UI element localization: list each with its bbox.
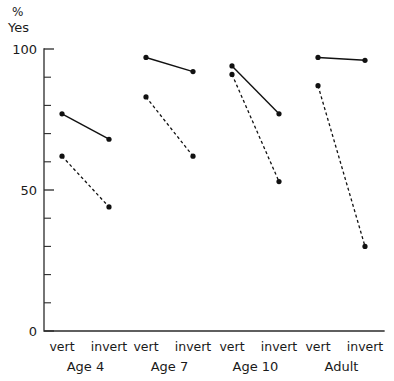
- series-segment-dashed: [146, 97, 193, 156]
- data-point-marker: [276, 111, 281, 116]
- data-point-marker: [229, 72, 234, 77]
- data-point-marker: [106, 137, 111, 142]
- series-segment-solid: [62, 114, 109, 139]
- data-point-marker: [59, 111, 64, 116]
- data-point-marker: [315, 55, 320, 60]
- data-point-marker: [276, 179, 281, 184]
- y-tick-label: 100: [12, 42, 37, 57]
- data-point-marker: [362, 58, 367, 63]
- x-group-label: Adult: [325, 359, 359, 374]
- x-group-label: Age 4: [67, 359, 105, 374]
- x-axis-condition-labels: vertinvertvertinvertvertinvertvertinvert: [49, 339, 383, 354]
- x-condition-label-vert: vert: [49, 339, 74, 354]
- line-chart: % Yes 100500 vertinvertvertinvertvertinv…: [0, 0, 394, 381]
- x-condition-label-vert: vert: [305, 339, 330, 354]
- axis-lines: [44, 49, 384, 331]
- data-point-marker: [229, 63, 234, 68]
- series-segment-solid: [318, 57, 365, 60]
- axes: [44, 49, 384, 331]
- x-axis-group-labels: Age 4Age 7Age 10Adult: [67, 359, 359, 374]
- series-segment-dashed: [318, 86, 365, 247]
- x-condition-label-vert: vert: [133, 339, 158, 354]
- y-axis-caption: % Yes: [7, 5, 29, 35]
- y-axis-title-label: Yes: [7, 20, 29, 35]
- data-point-marker: [190, 69, 195, 74]
- data-point-marker: [315, 83, 320, 88]
- y-axis-ticks: [44, 49, 54, 331]
- data-point-marker: [106, 204, 111, 209]
- data-point-marker: [59, 154, 64, 159]
- x-group-label: Age 7: [151, 359, 189, 374]
- chart-container: % Yes 100500 vertinvertvertinvertvertinv…: [0, 0, 394, 381]
- y-tick-label: 0: [29, 324, 37, 339]
- data-point-marker: [143, 55, 148, 60]
- data-point-marker: [143, 94, 148, 99]
- y-axis-unit-label: %: [12, 5, 23, 19]
- x-condition-label-invert: invert: [261, 339, 298, 354]
- x-condition-label-vert: vert: [219, 339, 244, 354]
- series-segment-solid: [146, 57, 193, 71]
- data-point-marker: [362, 244, 367, 249]
- x-condition-label-invert: invert: [347, 339, 384, 354]
- x-group-label: Age 10: [233, 359, 279, 374]
- y-tick-label: 50: [20, 183, 37, 198]
- x-condition-label-invert: invert: [91, 339, 128, 354]
- data-point-marker: [190, 154, 195, 159]
- data-series-layer: [59, 55, 367, 249]
- x-condition-label-invert: invert: [175, 339, 212, 354]
- series-segment-dashed: [62, 156, 109, 207]
- y-axis-tick-labels: 100500: [12, 42, 37, 339]
